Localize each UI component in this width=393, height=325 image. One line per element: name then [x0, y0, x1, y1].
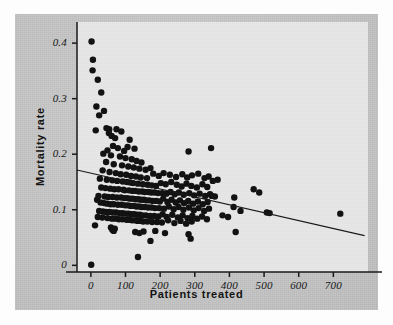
- y-tick-label: 0.1: [33, 203, 67, 215]
- y-axis-title: Mortality rate: [34, 107, 46, 186]
- figure-container: 00.10.20.30.4 0100200300400500600700 Pat…: [0, 0, 393, 325]
- plot-drawing-surface: [0, 0, 393, 325]
- y-tick-label: 0.4: [33, 36, 67, 48]
- axis-tick-marks: [72, 43, 333, 277]
- x-axis-title: Patients treated: [0, 288, 393, 300]
- y-tick-label: 0.3: [33, 92, 67, 104]
- y-tick-label: 0: [33, 258, 67, 270]
- scatter-points: [88, 38, 343, 268]
